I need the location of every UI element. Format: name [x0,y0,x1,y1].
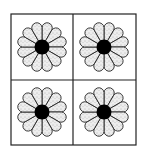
flower-bottom-right [80,88,128,136]
flower-center [97,40,112,55]
flower-top-right [80,23,128,71]
flower-grid-figure [0,0,146,151]
flower-center [97,105,112,120]
flower-center [35,40,50,55]
flower-top-left [18,23,66,71]
flower-center [35,105,50,120]
flower-bottom-left [18,88,66,136]
